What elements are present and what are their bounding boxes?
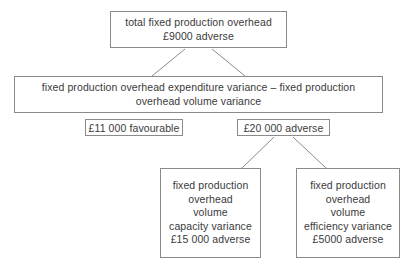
- connector-total-to-expenditure: [152, 49, 185, 76]
- node-capacity-line-3: volume: [193, 206, 227, 219]
- node-formula-line-1: fixed production overhead expenditure va…: [38, 81, 360, 94]
- node-efficiency-line-2: overhead: [326, 193, 371, 206]
- badge-volume-variance: £20 000 adverse: [237, 119, 330, 136]
- node-capacity-line-5: £15 000 adverse: [171, 233, 251, 246]
- node-variance-formula: fixed production overhead expenditure va…: [14, 76, 383, 113]
- node-capacity-line-2: overhead: [188, 193, 233, 206]
- node-efficiency-line-4: efficiency variance: [304, 220, 392, 233]
- node-efficiency-line-1: fixed production: [310, 179, 386, 192]
- connector-volume-to-capacity: [242, 137, 274, 168]
- node-efficiency-line-3: volume: [331, 206, 365, 219]
- node-total-line-2: £9000 adverse: [163, 30, 234, 43]
- badge-expenditure-variance: £11 000 favourable: [85, 119, 183, 136]
- variance-tree-diagram: total fixed production overhead £9000 ad…: [0, 0, 418, 270]
- node-formula-line-2: overhead volume variance: [132, 95, 266, 108]
- node-capacity-line-1: fixed production: [173, 179, 249, 192]
- node-capacity-line-4: capacity variance: [169, 220, 252, 233]
- node-efficiency-line-5: £5000 adverse: [313, 233, 384, 246]
- connector-total-to-volume: [212, 49, 245, 76]
- connector-volume-to-efficiency: [293, 137, 326, 168]
- node-total-fixed-production-overhead: total fixed production overhead £9000 ad…: [110, 11, 287, 48]
- node-capacity-variance: fixed production overhead volume capacit…: [160, 168, 261, 258]
- node-efficiency-variance: fixed production overhead volume efficie…: [296, 168, 400, 258]
- node-total-line-1: total fixed production overhead: [125, 16, 272, 29]
